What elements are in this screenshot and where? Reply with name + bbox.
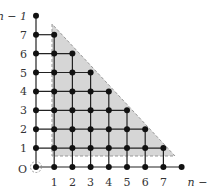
lattice-point bbox=[88, 70, 94, 76]
x-tick-label: 2 bbox=[69, 176, 76, 189]
y-tick-label: 1 bbox=[20, 142, 27, 155]
lattice-point bbox=[33, 126, 39, 132]
x-tick-label: 1 bbox=[51, 176, 58, 189]
lattice-point bbox=[142, 145, 148, 151]
lattice-point bbox=[106, 126, 112, 132]
lattice-point bbox=[33, 32, 39, 38]
lattice-point bbox=[51, 32, 57, 38]
lattice-point bbox=[106, 88, 112, 94]
y-tick-label: 5 bbox=[20, 67, 27, 80]
lattice-point bbox=[69, 126, 75, 132]
diagram-svg: 1234567n − 11234567n − 1O bbox=[0, 0, 208, 195]
lattice-point bbox=[142, 126, 148, 132]
y-tick-label: 4 bbox=[20, 85, 27, 98]
lattice-point bbox=[51, 145, 57, 151]
lattice-point bbox=[106, 107, 112, 113]
x-tick-label: 6 bbox=[142, 176, 149, 189]
lattice-point bbox=[33, 70, 39, 76]
lattice-point bbox=[33, 107, 39, 113]
y-tick-label: 7 bbox=[20, 29, 27, 42]
lattice-point bbox=[51, 88, 57, 94]
lattice-diagram: 1234567n − 11234567n − 1O bbox=[0, 0, 208, 195]
y-tick-label: n − 1 bbox=[0, 10, 27, 23]
y-tick-label: 6 bbox=[20, 48, 27, 61]
x-tick-label: 4 bbox=[105, 176, 112, 189]
lattice-point bbox=[88, 126, 94, 132]
lattice-point bbox=[106, 145, 112, 151]
lattice-point bbox=[124, 145, 130, 151]
y-tick-label: 3 bbox=[20, 104, 27, 117]
lattice-point bbox=[33, 145, 39, 151]
lattice-point bbox=[69, 107, 75, 113]
lattice-point bbox=[33, 164, 39, 170]
x-tick-label: 7 bbox=[160, 176, 167, 189]
origin-label: O bbox=[18, 163, 27, 176]
lattice-point bbox=[51, 107, 57, 113]
lattice-point bbox=[124, 107, 130, 113]
lattice-point bbox=[69, 164, 75, 170]
lattice-point bbox=[69, 88, 75, 94]
lattice-point bbox=[69, 70, 75, 76]
lattice-point bbox=[51, 70, 57, 76]
lattice-point bbox=[33, 13, 39, 19]
y-tick-label: 2 bbox=[20, 123, 27, 136]
lattice-point bbox=[124, 126, 130, 132]
lattice-point bbox=[51, 51, 57, 57]
lattice-point bbox=[160, 145, 166, 151]
lattice-point bbox=[88, 107, 94, 113]
lattice-point bbox=[33, 88, 39, 94]
lattice-point bbox=[33, 51, 39, 57]
lattice-point bbox=[124, 164, 130, 170]
x-tick-label: 3 bbox=[87, 176, 94, 189]
lattice-point bbox=[51, 126, 57, 132]
lattice-point bbox=[88, 88, 94, 94]
lattice-point bbox=[142, 164, 148, 170]
lattice-point bbox=[106, 164, 112, 170]
lattice-point bbox=[160, 164, 166, 170]
lattice-point bbox=[69, 145, 75, 151]
lattice-point bbox=[88, 145, 94, 151]
lattice-point bbox=[88, 164, 94, 170]
lattice-points bbox=[31, 13, 185, 173]
lattice-point bbox=[69, 51, 75, 57]
lattice-point bbox=[179, 164, 185, 170]
x-tick-label: n − 1 bbox=[188, 176, 208, 189]
lattice-point bbox=[51, 164, 57, 170]
x-tick-label: 5 bbox=[124, 176, 131, 189]
